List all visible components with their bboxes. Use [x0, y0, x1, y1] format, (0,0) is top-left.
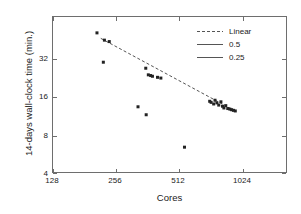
x-tick-label: 256 — [95, 176, 135, 185]
x-axis-title: Cores — [52, 192, 287, 203]
y-tick-label: 16 — [24, 92, 48, 101]
y-tick-label: 32 — [24, 54, 48, 63]
data-point — [224, 104, 227, 107]
data-point — [102, 61, 105, 64]
x-tick-label: 1024 — [222, 176, 262, 185]
data-point — [95, 31, 98, 34]
data-point — [108, 40, 111, 43]
plot-area: Linear 0.5 0.25 — [52, 16, 287, 173]
y-tick-label: 8 — [24, 131, 48, 140]
data-point — [214, 99, 217, 102]
x-tick-label: 512 — [158, 176, 198, 185]
data-point — [212, 102, 215, 105]
data-point — [159, 77, 162, 80]
data-point — [183, 146, 186, 149]
chart-legend: Linear 0.5 0.25 — [197, 25, 275, 64]
legend-label: 0.25 — [229, 53, 245, 62]
legend-item-linear: Linear — [197, 25, 275, 38]
data-point — [234, 109, 237, 112]
legend-label: 0.5 — [229, 40, 240, 49]
data-point — [144, 67, 147, 70]
data-point — [210, 101, 213, 104]
data-point — [151, 75, 154, 78]
data-point — [137, 105, 140, 108]
data-point — [219, 100, 222, 103]
legend-swatch-dashed-icon — [197, 28, 223, 35]
data-point — [145, 113, 148, 116]
data-point — [217, 104, 220, 107]
data-point — [156, 76, 159, 79]
legend-label: Linear — [229, 27, 251, 36]
y-axis-tick-right — [282, 173, 286, 174]
legend-item-025: 0.25 — [197, 51, 275, 64]
chart-figure: 14-days wall-clock time (min.) 32 16 8 4… — [0, 0, 301, 214]
legend-swatch-solid-icon — [197, 54, 223, 61]
y-axis-tick — [53, 173, 57, 174]
legend-swatch-solid-icon — [197, 41, 223, 48]
x-tick-label: 128 — [32, 176, 72, 185]
legend-item-05: 0.5 — [197, 38, 275, 51]
data-point — [103, 39, 106, 42]
